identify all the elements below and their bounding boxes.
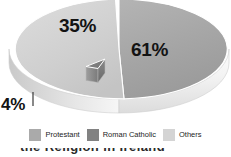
pie-top-face [15, 0, 227, 99]
legend-label-protestant: Protestant [45, 131, 79, 139]
legend-label-others: Others [179, 131, 202, 139]
legend-item-protestant[interactable]: Protestant [29, 129, 79, 141]
pie-plot-area: 35% 61% 4% [0, 0, 231, 124]
caption-strip: the Religion in Ireland [0, 148, 231, 157]
pie-graphic [0, 0, 231, 124]
data-label-others: 35% [59, 16, 96, 35]
chart-legend: Protestant Roman Catholic Others [0, 124, 231, 146]
data-label-roman-catholic: 4% [1, 96, 25, 113]
legend-swatch-roman-catholic [87, 129, 99, 141]
legend-swatch-protestant [29, 129, 41, 141]
legend-swatch-others [163, 129, 175, 141]
chart-caption: the Religion in Ireland [20, 148, 165, 154]
pie-chart: 35% 61% 4% Protestant Roman Catholic Oth… [0, 0, 231, 157]
data-label-protestant: 61% [131, 40, 168, 59]
legend-item-roman-catholic[interactable]: Roman Catholic [87, 129, 156, 141]
legend-item-others[interactable]: Others [163, 129, 202, 141]
legend-label-roman-catholic: Roman Catholic [103, 131, 156, 139]
